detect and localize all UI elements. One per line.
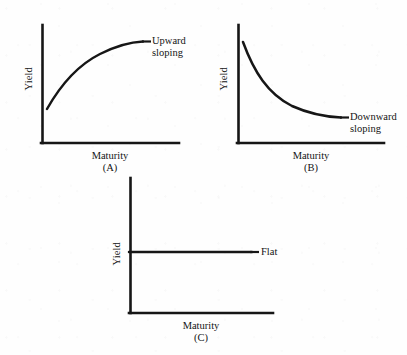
- panel-a-annotation: Upwardsloping: [152, 35, 186, 59]
- panel-c-annotation-line1: Flat: [261, 246, 277, 257]
- panel-b-annotation-line1: Downward: [350, 111, 397, 122]
- panel-a-id: (A): [70, 162, 150, 174]
- panel-c-annotation: Flat: [261, 246, 277, 258]
- panel-a-annotation-line1: Upward: [152, 35, 186, 46]
- panel-b-y-axis-label: Yield: [218, 59, 230, 99]
- panel-b-id: (B): [271, 162, 351, 174]
- panel-a-y-axis-label: Yield: [23, 59, 35, 99]
- panel-a-curve-upward-sloping: [47, 42, 143, 110]
- panel-b-annotation-line2: sloping: [350, 123, 381, 134]
- yield-curve-figure: Upwardsloping Yield Maturity (A) Downwar…: [0, 0, 407, 355]
- panel-c-axes: [129, 178, 273, 313]
- panel-b-annotation: Downwardsloping: [350, 111, 397, 135]
- panel-c-y-axis-label: Yield: [111, 234, 123, 274]
- panel-c-x-axis-label: Maturity: [161, 320, 241, 332]
- panel-c-id: (C): [161, 332, 241, 344]
- panel-a-x-axis-label: Maturity: [70, 150, 150, 162]
- figure-canvas: [0, 0, 407, 355]
- panel-b-curve-downward-sloping: [243, 42, 341, 118]
- panel-b-x-axis-label: Maturity: [271, 150, 351, 162]
- panel-a-annotation-line2: sloping: [152, 47, 183, 58]
